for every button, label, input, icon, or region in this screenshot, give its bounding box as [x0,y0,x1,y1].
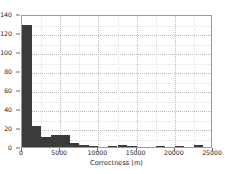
gridline-horizontal [22,140,211,141]
histogram-figure: 0204060801001201400500010000150002000025… [0,0,225,174]
x-axis-tick-mark [136,148,137,152]
x-axis-tick-mark [212,148,213,152]
y-axis-tick-mark [16,34,20,35]
y-axis-tick-label: 40 [4,107,12,113]
y-axis-tick-label: 120 [0,31,12,37]
gridline-horizontal [22,83,211,84]
y-axis-tick-label: 100 [0,50,12,56]
gridline-vertical [175,16,176,147]
y-axis-tick-mark [16,91,20,92]
y-axis-tick-mark [16,15,20,16]
y-axis-tick-label: 80 [4,69,12,75]
x-axis-tick-mark [21,148,22,152]
gridline-horizontal [22,92,211,93]
gridline-vertical [60,16,61,147]
x-axis-tick-mark [97,148,98,152]
gridlines [22,16,211,147]
gridline-vertical [156,16,157,147]
x-axis-tick-mark [59,148,60,152]
gridline-horizontal [22,64,211,65]
y-axis-tick-label: 60 [4,88,12,94]
gridline-horizontal [22,54,211,55]
gridline-horizontal [22,121,211,122]
gridline-horizontal [22,130,211,131]
y-axis-tick-mark [16,72,20,73]
gridline-horizontal [22,73,211,74]
gridline-vertical [41,16,42,147]
gridline-vertical [79,16,80,147]
x-axis-label: Correctness (m) [21,160,212,167]
gridline-vertical [118,16,119,147]
y-axis-tick-mark [16,53,20,54]
gridline-vertical [194,16,195,147]
gridline-horizontal [22,35,211,36]
y-axis-tick-mark [16,129,20,130]
gridline-horizontal [22,102,211,103]
y-axis-tick-label: 20 [4,126,12,132]
y-axis-tick-mark [16,110,20,111]
plot-area [21,15,212,148]
gridline-horizontal [22,111,211,112]
gridline-horizontal [22,26,211,27]
x-axis-tick-mark [174,148,175,152]
gridline-vertical [137,16,138,147]
y-axis-tick-label: 0 [8,145,12,151]
gridline-vertical [98,16,99,147]
y-axis-tick-label: 140 [0,12,12,18]
gridline-horizontal [22,45,211,46]
